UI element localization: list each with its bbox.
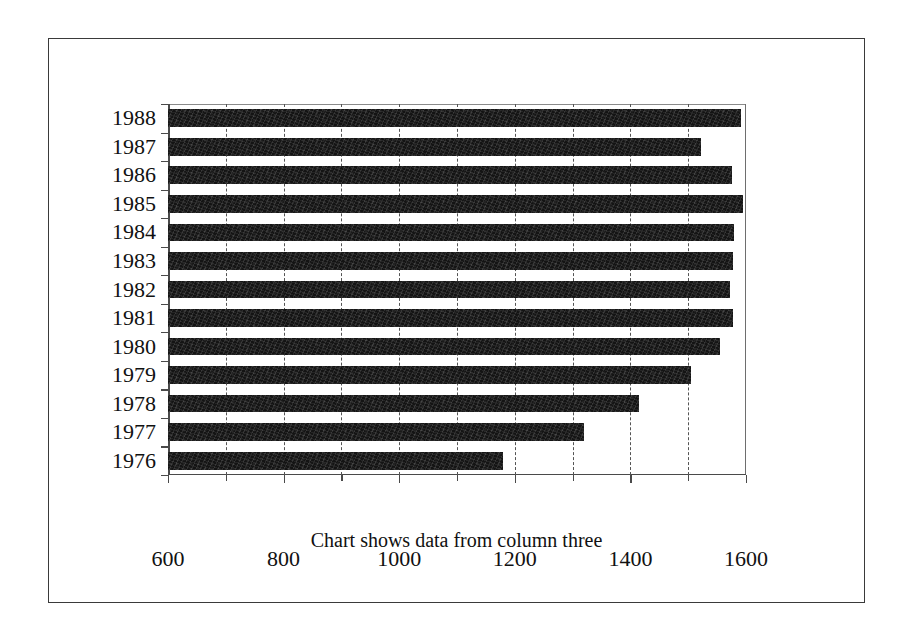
category-axis-label: 1978 (112, 393, 156, 415)
chart-figure-frame: 1988198719861985198419831982198119801979… (48, 38, 865, 603)
category-axis-tick (161, 332, 168, 333)
bar (168, 452, 503, 470)
category-axis-label: 1977 (112, 421, 156, 443)
category-axis-label: 1987 (112, 136, 156, 158)
value-axis-tick (457, 475, 458, 481)
category-axis-tick (161, 133, 168, 134)
plot-right-spine (745, 104, 746, 475)
value-axis-tick (688, 475, 689, 481)
bar (168, 195, 743, 213)
value-axis-tick (515, 475, 516, 483)
category-axis-tick (161, 275, 168, 276)
category-axis-label: 1979 (112, 364, 156, 386)
category-axis-tick (161, 389, 168, 390)
bar (168, 366, 691, 384)
category-axis-label: 1985 (112, 193, 156, 215)
category-axis-label: 1976 (112, 450, 156, 472)
category-axis-tick (161, 446, 168, 447)
category-axis-label: 1980 (112, 336, 156, 358)
category-axis-tick (161, 475, 168, 476)
bar (168, 281, 730, 299)
category-axis-label: 1982 (112, 279, 156, 301)
category-axis-label: 1984 (112, 221, 156, 243)
category-axis-tick (161, 418, 168, 419)
category-axis-tick (161, 218, 168, 219)
category-axis-label: 1983 (112, 250, 156, 272)
value-axis-tick (399, 475, 400, 483)
plot-area: 1988198719861985198419831982198119801979… (168, 104, 746, 475)
bar (168, 423, 584, 441)
bar (168, 138, 701, 156)
bar (168, 395, 639, 413)
value-axis-tick (226, 475, 227, 481)
value-axis-tick (573, 475, 574, 481)
value-axis-tick (341, 475, 342, 481)
category-axis-tick (161, 104, 168, 105)
category-axis-label: 1981 (112, 307, 156, 329)
bar (168, 109, 741, 127)
category-axis-tick (161, 304, 168, 305)
category-axis-tick (161, 361, 168, 362)
category-axis-label: 1988 (112, 107, 156, 129)
value-axis-tick (746, 475, 747, 483)
bar (168, 309, 733, 327)
bar (168, 252, 733, 270)
bar (168, 338, 720, 356)
bar (168, 224, 734, 242)
category-axis-tick (161, 190, 168, 191)
value-axis-tick (284, 475, 285, 483)
value-axis-tick (168, 475, 169, 483)
chart-caption: Chart shows data from column three (49, 529, 864, 552)
category-axis-label: 1986 (112, 164, 156, 186)
category-axis-tick (161, 247, 168, 248)
bar (168, 166, 732, 184)
category-axis-tick (161, 161, 168, 162)
value-axis-tick (630, 475, 631, 483)
